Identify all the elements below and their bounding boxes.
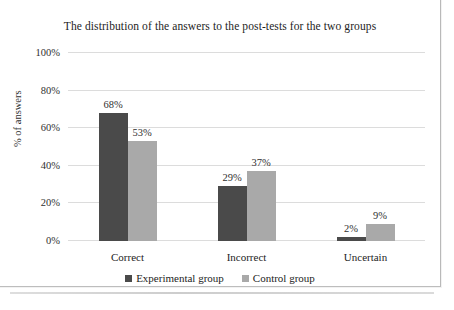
x-axis-category-label: Incorrect: [227, 251, 267, 263]
bar-rect[interactable]: [366, 224, 395, 241]
chart-legend: Experimental groupControl group: [0, 272, 440, 284]
y-axis-tick-label: 40%: [41, 159, 60, 170]
x-axis-category-label: Correct: [111, 251, 144, 263]
y-axis-tick-label: 100%: [36, 47, 61, 58]
bar-rect[interactable]: [218, 186, 247, 241]
bar-value-label: 2%: [344, 223, 358, 234]
bar[interactable]: 9%: [366, 53, 395, 241]
bar-group: 68%53%Correct: [68, 53, 187, 241]
bar[interactable]: 68%: [99, 53, 128, 241]
bar[interactable]: 29%: [218, 53, 247, 241]
scanned-page-bottom-edge: [10, 292, 434, 294]
y-axis-tick-label: 60%: [41, 122, 60, 133]
bar-value-label: 9%: [373, 210, 387, 221]
legend-item[interactable]: Control group: [242, 272, 315, 284]
legend-swatch-icon: [125, 275, 132, 282]
bar-rect[interactable]: [247, 171, 276, 241]
y-axis-tick-label: 20%: [41, 197, 60, 208]
bar-group: 29%37%Incorrect: [187, 53, 306, 241]
bar[interactable]: 53%: [128, 53, 157, 241]
legend-label: Experimental group: [136, 272, 224, 284]
y-axis-tick-label: 0%: [46, 235, 60, 246]
legend-item[interactable]: Experimental group: [125, 272, 224, 284]
bar-value-label: 68%: [103, 99, 122, 110]
bar-value-label: 37%: [251, 157, 270, 168]
bar-rect[interactable]: [99, 113, 128, 241]
bar[interactable]: 2%: [337, 53, 366, 241]
x-axis-category-label: Uncertain: [344, 251, 387, 263]
legend-swatch-icon: [242, 275, 249, 282]
bar-value-label: 29%: [222, 172, 241, 183]
y-axis-title: % of answers: [12, 90, 23, 147]
bar[interactable]: 37%: [247, 53, 276, 241]
bar-rect[interactable]: [337, 237, 366, 241]
legend-label: Control group: [253, 272, 315, 284]
bar-group: 2%9%Uncertain: [306, 53, 425, 241]
plot-area: 0%20%40%60%80%100%68%53%Correct29%37%Inc…: [68, 53, 425, 241]
y-axis-tick-label: 80%: [41, 84, 60, 95]
bar-value-label: 53%: [132, 127, 151, 138]
chart-title: The distribution of the answers to the p…: [0, 20, 440, 32]
bar-rect[interactable]: [128, 141, 157, 241]
